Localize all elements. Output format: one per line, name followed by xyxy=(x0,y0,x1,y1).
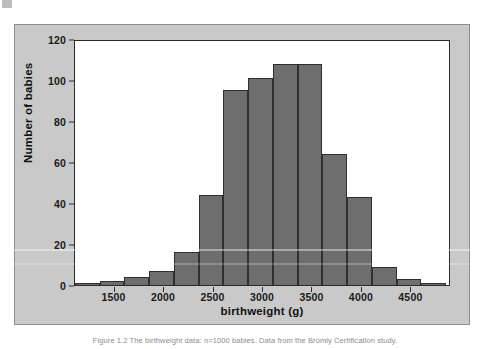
x-axis-tick-mark xyxy=(262,287,263,292)
histogram-bar xyxy=(372,267,397,285)
x-axis-tick-mark xyxy=(311,287,312,292)
y-axis-tick-label: 120 xyxy=(20,34,66,46)
x-axis-tick-mark xyxy=(213,287,214,292)
x-axis-tick-mark xyxy=(163,287,164,292)
histogram-bar xyxy=(298,64,323,285)
x-axis-title: birthweight (g) xyxy=(74,305,450,317)
histogram-bar xyxy=(100,281,125,285)
histogram-bar xyxy=(347,197,372,285)
x-axis-tick-mark xyxy=(114,287,115,292)
histogram-bar xyxy=(248,78,273,285)
histogram-bar xyxy=(322,154,347,285)
x-axis-tick-label: 2500 xyxy=(200,291,224,303)
x-axis-tick-label: 1500 xyxy=(101,291,125,303)
histogram-bar xyxy=(421,283,446,285)
plot-area xyxy=(74,40,450,286)
histogram-bar xyxy=(149,271,174,285)
y-axis-tick-label: 0 xyxy=(20,280,66,292)
y-axis-tick-label: 20 xyxy=(20,239,66,251)
x-axis-tick-label: 3000 xyxy=(250,291,274,303)
figure-container: Number of babies 020406080100120 1500200… xyxy=(0,0,490,349)
histogram-bar xyxy=(75,283,100,285)
y-axis-tick-label: 80 xyxy=(20,116,66,128)
x-axis-tick-label: 3500 xyxy=(299,291,323,303)
x-axis-tick-mark xyxy=(361,287,362,292)
histogram-bar xyxy=(397,279,422,285)
scan-artifact-corner xyxy=(2,0,12,8)
y-axis-tick-label: 60 xyxy=(20,157,66,169)
histogram-bar xyxy=(124,277,149,285)
x-axis-tick-label: 4500 xyxy=(398,291,422,303)
x-axis-tick-label: 2000 xyxy=(151,291,175,303)
histogram-bar xyxy=(223,90,248,285)
x-axis-tick-mark xyxy=(410,287,411,292)
figure-caption: Figure 1.2 The birthweight data: n=1000 … xyxy=(0,336,490,345)
y-axis-tick-label: 40 xyxy=(20,198,66,210)
histogram-bar xyxy=(174,252,199,285)
x-axis-tick-label: 4000 xyxy=(349,291,373,303)
bar-series xyxy=(75,41,449,285)
histogram-bar xyxy=(273,64,298,285)
y-axis-tick-label: 100 xyxy=(20,75,66,87)
histogram-bar xyxy=(199,195,224,285)
